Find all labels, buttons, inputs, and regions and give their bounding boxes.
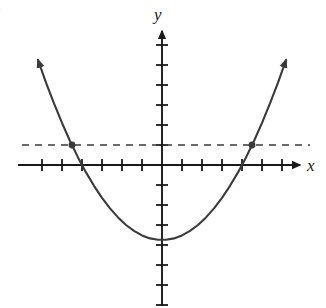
left-intersection	[69, 142, 76, 149]
parabola-figure: ) y x	[0, 0, 326, 308]
x-axis-label: x	[307, 157, 315, 174]
y-axis	[156, 31, 168, 306]
graph-canvas	[0, 0, 326, 308]
right-intersection	[249, 142, 256, 149]
y-axis-label: y	[154, 6, 162, 23]
x-axis	[18, 159, 300, 171]
